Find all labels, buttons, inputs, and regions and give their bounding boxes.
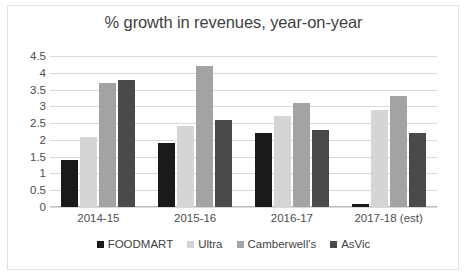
legend-label: Camberwell's bbox=[248, 238, 317, 250]
legend-swatch-icon bbox=[97, 241, 104, 248]
y-axis-tick-label: 2 bbox=[2, 134, 46, 146]
bar bbox=[312, 130, 329, 207]
bar-group bbox=[147, 56, 244, 207]
gridline bbox=[50, 207, 437, 208]
chart-legend: FOODMARTUltraCamberwell'sAsVic bbox=[0, 238, 467, 250]
legend-label: FOODMART bbox=[108, 238, 174, 250]
x-axis-tick-label: 2014-15 bbox=[50, 212, 147, 224]
x-axis-tick-label: 2016-17 bbox=[244, 212, 341, 224]
bar bbox=[409, 133, 426, 207]
legend-item[interactable]: Camberwell's bbox=[237, 238, 317, 250]
legend-label: AsVic bbox=[341, 238, 370, 250]
bar bbox=[215, 120, 232, 207]
y-axis-tick-label: 1.5 bbox=[2, 151, 46, 163]
y-axis: 00.511.522.533.544.5 bbox=[0, 56, 46, 207]
bar bbox=[371, 110, 388, 207]
bar bbox=[118, 80, 135, 208]
y-axis-tick-label: 4 bbox=[2, 67, 46, 79]
legend-item[interactable]: Ultra bbox=[187, 238, 222, 250]
legend-item[interactable]: AsVic bbox=[330, 238, 370, 250]
x-axis: 2014-152015-162016-172017-18 (est) bbox=[50, 212, 437, 224]
y-axis-tick-label: 2.5 bbox=[2, 117, 46, 129]
x-axis-tick-label: 2015-16 bbox=[147, 212, 244, 224]
bar-group bbox=[244, 56, 341, 207]
bar bbox=[158, 143, 175, 207]
bar bbox=[255, 133, 272, 207]
bar bbox=[390, 96, 407, 207]
y-axis-tick-label: 0 bbox=[2, 201, 46, 213]
x-axis-tick-label: 2017-18 (est) bbox=[340, 212, 437, 224]
legend-swatch-icon bbox=[187, 241, 194, 248]
chart-title: % growth in revenues, year-on-year bbox=[0, 13, 467, 32]
bar bbox=[80, 137, 97, 207]
legend-item[interactable]: FOODMART bbox=[97, 238, 174, 250]
bar bbox=[177, 126, 194, 207]
bar bbox=[293, 103, 310, 207]
y-axis-tick-label: 3 bbox=[2, 100, 46, 112]
bar-group bbox=[50, 56, 147, 207]
chart-container: % growth in revenues, year-on-year 00.51… bbox=[0, 0, 467, 278]
y-axis-tick-label: 0.5 bbox=[2, 184, 46, 196]
bar bbox=[352, 204, 369, 207]
legend-swatch-icon bbox=[237, 241, 244, 248]
legend-swatch-icon bbox=[330, 241, 337, 248]
bar-group bbox=[340, 56, 437, 207]
bar bbox=[99, 83, 116, 207]
plot-area bbox=[50, 56, 437, 207]
legend-label: Ultra bbox=[198, 238, 222, 250]
bar bbox=[196, 66, 213, 207]
y-axis-tick-label: 4.5 bbox=[2, 50, 46, 62]
bar bbox=[274, 116, 291, 207]
y-axis-tick-label: 1 bbox=[2, 167, 46, 179]
bar bbox=[61, 160, 78, 207]
bar-groups bbox=[50, 56, 437, 207]
y-axis-tick-label: 3.5 bbox=[2, 84, 46, 96]
